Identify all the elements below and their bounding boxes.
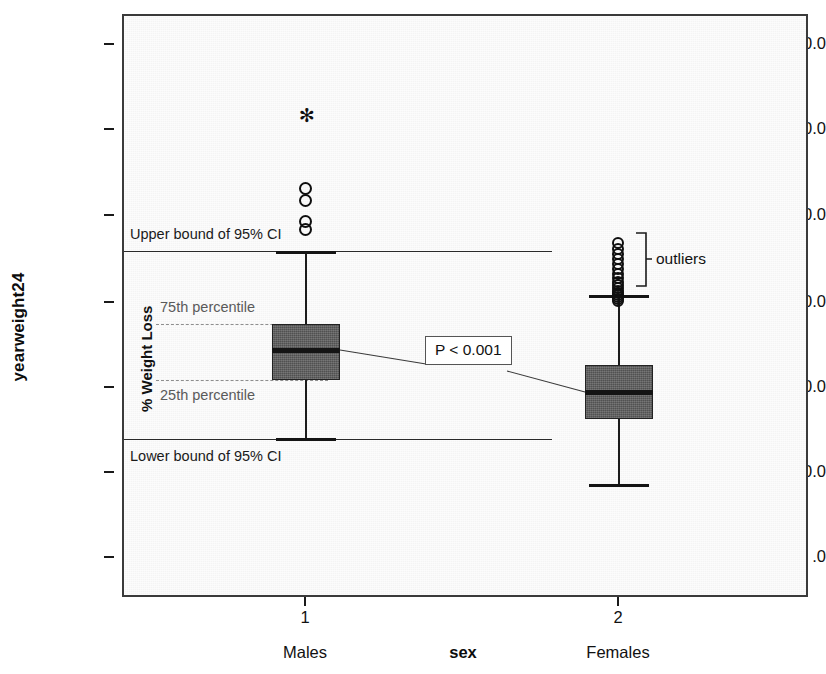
p75-label: 75th percentile: [160, 299, 255, 315]
females-median-line: [585, 390, 653, 395]
weight-loss-bracket-label: % Weight Loss: [138, 306, 155, 412]
lower-ci-reference-line: [122, 439, 552, 440]
upper-ci-label: Upper bound of 95% CI: [130, 226, 282, 242]
plot-inner: Upper bound of 95% CI Lower bound of 95%…: [124, 16, 806, 595]
p25-dashed-guide: [156, 380, 328, 381]
males-upper-whisker-cap: [276, 251, 336, 254]
plot-area: Upper bound of 95% CI Lower bound of 95%…: [122, 14, 808, 597]
females-outlier-310: [612, 295, 624, 307]
x-tick-number-1: 1: [300, 608, 309, 627]
x-category-label-females: Females: [586, 643, 649, 662]
x-category-label-males: Males: [283, 643, 327, 662]
x-tick-number-2: 2: [613, 608, 622, 627]
y-axis-title: yearweight24: [2, 232, 36, 422]
males-extreme-star-521: ✻: [299, 106, 315, 125]
p25-label: 25th percentile: [160, 387, 255, 403]
y-tick-mark-600: [104, 43, 114, 45]
females-lower-whisker-stem: [618, 419, 620, 485]
males-lower-whisker-cap: [276, 438, 336, 441]
lower-ci-label: Lower bound of 95% CI: [130, 448, 282, 464]
males-outlier-412: [299, 194, 312, 207]
upper-ci-reference-line: [122, 251, 552, 252]
y-tick-mark-200: [104, 386, 114, 388]
outliers-label: outliers: [656, 250, 706, 268]
p-value-callout: P < 0.001: [425, 336, 512, 365]
x-axis-title: sex: [449, 643, 477, 662]
females-lower-whisker-cap: [589, 484, 649, 487]
y-tick-mark-400: [104, 214, 114, 216]
males-median-line: [272, 348, 340, 353]
x-tick-mark-1: [304, 597, 306, 606]
x-tick-mark-2: [617, 597, 619, 606]
males-lower-whisker-stem: [305, 380, 307, 440]
y-tick-mark-300: [104, 301, 114, 303]
boxplot-figure: yearweight24 600.0 500.0 400.0 300.0 200…: [0, 0, 826, 674]
y-axis-title-text: yearweight24: [9, 273, 29, 382]
y-tick-mark-500: [104, 128, 114, 130]
males-outlier-425: [299, 182, 312, 195]
y-tick-mark-100: [104, 471, 114, 473]
y-tick-mark-0: [104, 556, 114, 558]
males-outlier-385: [299, 215, 312, 228]
